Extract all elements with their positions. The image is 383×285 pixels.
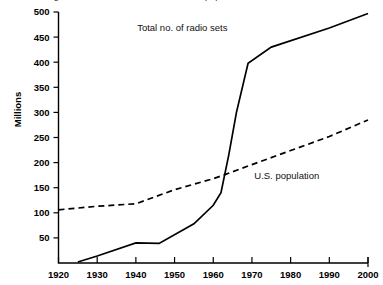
- svg-text:450: 450: [34, 32, 50, 43]
- series-line-us-population: [59, 120, 369, 210]
- svg-text:1920: 1920: [48, 269, 69, 280]
- svg-text:400: 400: [34, 57, 50, 68]
- svg-text:Total no. of radio sets: Total no. of radio sets: [137, 22, 228, 33]
- svg-text:200: 200: [34, 157, 50, 168]
- svg-text:1980: 1980: [280, 269, 301, 280]
- svg-text:250: 250: [34, 132, 50, 143]
- series-line-radio-sets: [78, 14, 368, 262]
- svg-text:50: 50: [39, 232, 50, 243]
- svg-text:1960: 1960: [203, 269, 224, 280]
- axis-lines: [59, 12, 369, 263]
- svg-text:1930: 1930: [87, 269, 108, 280]
- svg-text:350: 350: [34, 82, 50, 93]
- svg-text:U.S. population: U.S. population: [254, 170, 319, 181]
- svg-text:2000: 2000: [357, 269, 378, 280]
- svg-text:500: 500: [34, 6, 50, 17]
- plot-area: 50100150200250300350400450500 1920193019…: [0, 0, 383, 285]
- svg-text:1990: 1990: [319, 269, 340, 280]
- svg-text:1970: 1970: [241, 269, 262, 280]
- svg-text:1940: 1940: [125, 269, 146, 280]
- chart-figure: Figure 1. Growth of radio sets vs. U.S. …: [0, 0, 383, 285]
- svg-text:100: 100: [34, 207, 50, 218]
- svg-text:1950: 1950: [164, 269, 185, 280]
- y-axis-ticks: 50100150200250300350400450500: [34, 6, 59, 243]
- svg-text:300: 300: [34, 107, 50, 118]
- x-axis-ticks: 192019301940195019601970198019902000: [48, 257, 379, 280]
- svg-text:150: 150: [34, 182, 50, 193]
